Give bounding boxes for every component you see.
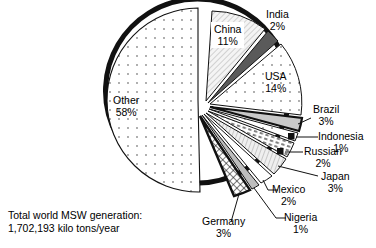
slice-label-other: Other 58% <box>113 94 139 118</box>
slice-label-nigeria-name: Nigeria <box>284 211 317 223</box>
slice-label-other-name: Other <box>113 94 139 106</box>
slice-label-china-name: China <box>214 23 241 35</box>
slice-label-japan-pct: 3% <box>321 182 350 194</box>
slice-label-mexico-pct: 2% <box>272 195 305 207</box>
slice-label-mexico-name: Mexico <box>272 183 305 195</box>
chart-caption: Total world MSW generation: 1,702,193 ki… <box>8 209 142 234</box>
slice-label-indonesia-name: Indonesia <box>318 130 364 142</box>
slice-label-brazil-name: Brazil <box>313 103 339 115</box>
slice-label-usa-name: USA <box>265 70 287 82</box>
pie-chart-figure: China 11% India 2% USA 14% Brazil 3% Ind… <box>0 0 376 248</box>
slice-label-nigeria: Nigeria 1% <box>284 211 317 235</box>
slice-label-japan-name: Japan <box>321 170 350 182</box>
slice-label-mexico: Mexico 2% <box>272 183 305 207</box>
slice-label-brazil-pct: 3% <box>313 115 339 127</box>
slice-label-japan: Japan 3% <box>321 170 350 194</box>
slice-label-russian-pct: 2% <box>304 157 342 169</box>
slice-label-other-pct: 58% <box>113 106 139 118</box>
slice-label-india-name: India <box>266 8 289 20</box>
slice-label-china: China 11% <box>211 22 244 48</box>
slice-label-usa-pct: 14% <box>265 82 287 94</box>
leader-mexico <box>263 180 268 190</box>
slice-label-china-pct: 11% <box>214 35 241 47</box>
slice-label-brazil: Brazil 3% <box>313 103 339 127</box>
slice-label-russian-name: Russian <box>304 145 342 157</box>
slice-label-india: India 2% <box>266 8 289 32</box>
slice-label-germany-name: Germany <box>202 215 245 227</box>
slice-label-russian: Russian 2% <box>304 145 342 169</box>
slice-label-india-pct: 2% <box>266 20 289 32</box>
slice-label-nigeria-pct: 1% <box>284 223 317 235</box>
chart-caption-line1: Total world MSW generation: <box>8 209 142 222</box>
slice-label-germany-pct: 3% <box>202 227 245 239</box>
slice-label-germany: Germany 3% <box>202 215 245 239</box>
chart-caption-line2: 1,702,193 kilo tons/year <box>8 222 142 235</box>
slice-label-usa: USA 14% <box>265 70 287 94</box>
